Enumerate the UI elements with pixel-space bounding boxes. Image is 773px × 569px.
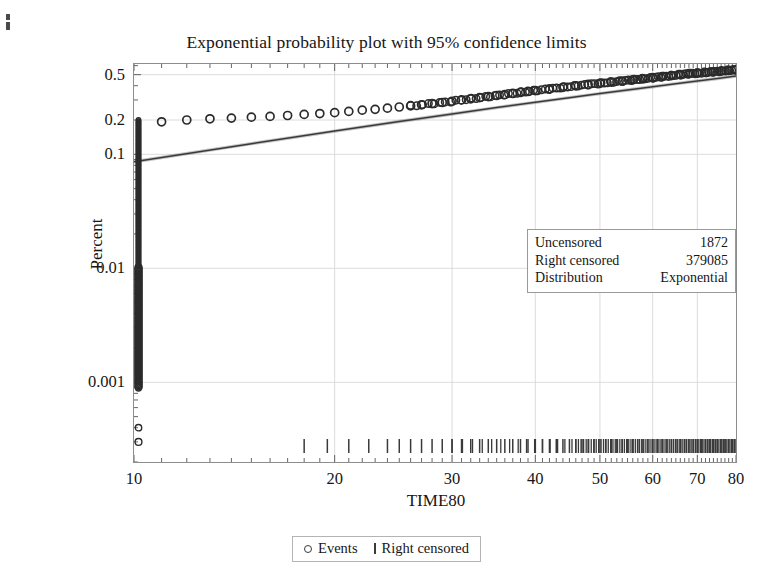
summary-value: Exponential	[642, 269, 728, 287]
event-point	[316, 110, 324, 118]
x-tick-label: 10	[126, 469, 143, 489]
event-point	[345, 107, 353, 115]
chart-title: Exponential probability plot with 95% co…	[0, 32, 773, 53]
x-tick-label: 40	[527, 469, 544, 489]
summary-row: DistributionExponential	[535, 269, 728, 287]
event-point	[358, 106, 366, 114]
y-tick-label: 0.2	[104, 110, 125, 130]
y-tick-label: 0.01	[96, 258, 125, 278]
legend-entry[interactable]: Events	[304, 540, 357, 557]
summary-value: 1872	[642, 234, 728, 252]
y-tick-label: 0.5	[104, 65, 125, 85]
legend-label: Right censored	[382, 540, 469, 557]
event-point	[300, 110, 308, 118]
circle-marker-icon	[304, 545, 312, 553]
event-point	[395, 103, 403, 111]
x-tick-label: 80	[728, 469, 745, 489]
x-axis-title: TIME80	[134, 491, 738, 511]
x-tick-label: 60	[644, 469, 661, 489]
tick-marker-icon	[374, 543, 376, 554]
event-point	[383, 104, 391, 112]
summary-value: 379085	[642, 252, 728, 270]
summary-row: Right censored379085	[535, 252, 728, 270]
summary-info-box: Uncensored1872Right censored379085Distri…	[527, 229, 736, 293]
event-point	[227, 114, 235, 122]
x-tick-label: 30	[444, 469, 461, 489]
confidence-band	[134, 76, 736, 162]
x-tick-label: 50	[592, 469, 609, 489]
legend-entry[interactable]: Right censored	[374, 540, 469, 557]
chart-legend: EventsRight censored	[0, 536, 773, 562]
summary-label: Uncensored	[535, 234, 642, 252]
x-tick-label: 20	[326, 469, 343, 489]
event-point	[266, 112, 274, 120]
event-point	[206, 115, 214, 123]
censor-ticks	[304, 439, 736, 453]
legend-inner: EventsRight censored	[292, 536, 481, 562]
summary-label: Right censored	[535, 252, 642, 270]
event-point	[371, 105, 379, 113]
scan-artifact	[6, 14, 10, 30]
probability-plot-figure: Exponential probability plot with 95% co…	[0, 0, 773, 569]
y-tick-label: 0.1	[104, 144, 125, 164]
summary-table: Uncensored1872Right censored379085Distri…	[535, 234, 728, 287]
plot-area: Percent TIME80 Uncensored1872Right censo…	[133, 63, 737, 463]
event-point	[158, 118, 166, 126]
event-point	[284, 112, 292, 120]
legend-label: Events	[318, 540, 357, 557]
summary-row: Uncensored1872	[535, 234, 728, 252]
x-tick-label: 70	[689, 469, 706, 489]
y-tick-label: 0.001	[88, 372, 125, 392]
summary-label: Distribution	[535, 269, 642, 287]
